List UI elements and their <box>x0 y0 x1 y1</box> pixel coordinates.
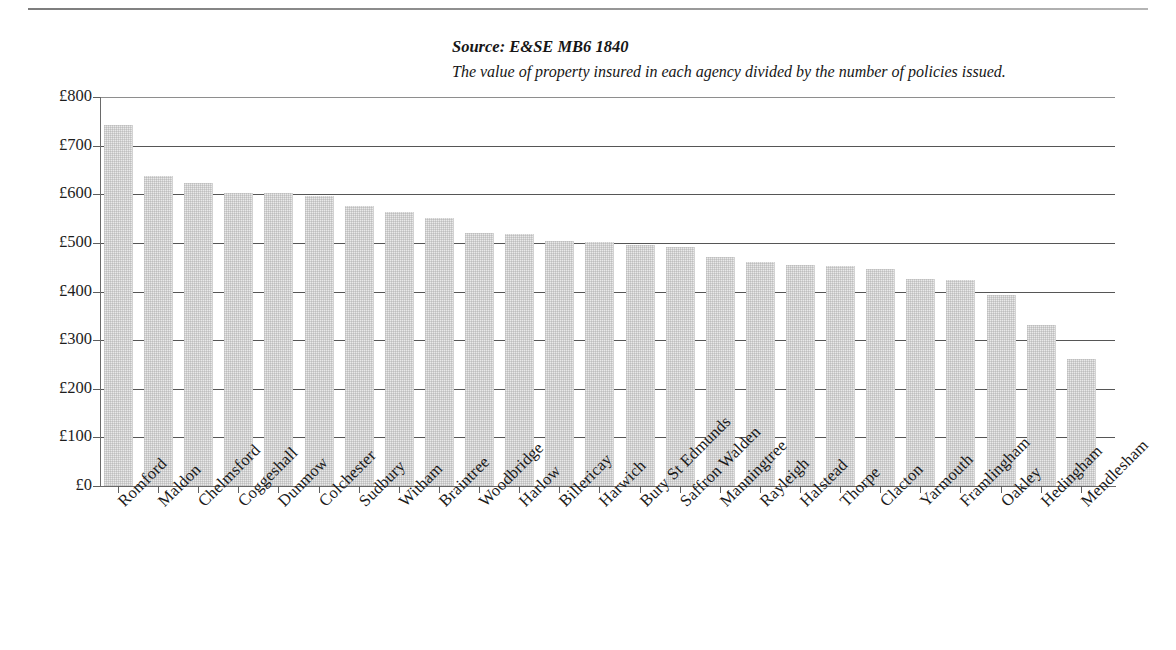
bar[interactable] <box>345 206 374 486</box>
x-axis-tick <box>599 486 600 493</box>
x-axis-tick <box>238 486 239 493</box>
bar[interactable] <box>786 265 815 486</box>
y-axis-tick-label: £100 <box>38 428 92 445</box>
x-axis-tick <box>1041 486 1042 493</box>
bar[interactable] <box>826 266 855 486</box>
y-axis-tick-label: £400 <box>38 283 92 300</box>
y-axis-tick-label: £600 <box>38 185 92 202</box>
x-axis-tick <box>920 486 921 493</box>
y-axis-tick-label: £200 <box>38 380 92 397</box>
x-axis-tick <box>359 486 360 493</box>
bar[interactable] <box>866 269 895 486</box>
x-axis-tick <box>479 486 480 493</box>
y-axis-tick <box>93 146 100 147</box>
y-axis-line <box>100 97 101 487</box>
y-axis-tick <box>93 486 100 487</box>
x-axis-tick <box>880 486 881 493</box>
bar[interactable] <box>184 183 213 486</box>
x-axis-tick <box>760 486 761 493</box>
x-axis-tick <box>319 486 320 493</box>
y-axis-tick <box>93 97 100 98</box>
x-axis-tick <box>720 486 721 493</box>
x-axis-tick <box>399 486 400 493</box>
plot-area <box>100 97 1115 486</box>
y-axis-tick <box>93 243 100 244</box>
bar[interactable] <box>104 125 133 486</box>
x-axis-tick <box>1001 486 1002 493</box>
x-axis-tick <box>278 486 279 493</box>
y-axis-tick <box>93 437 100 438</box>
y-axis-tick-label: £800 <box>38 88 92 105</box>
y-axis-tick <box>93 340 100 341</box>
bar[interactable] <box>264 193 293 486</box>
bar[interactable] <box>585 242 614 486</box>
y-axis-tick <box>93 194 100 195</box>
x-axis-tick <box>198 486 199 493</box>
x-axis-tick <box>800 486 801 493</box>
bar[interactable] <box>465 233 494 486</box>
bar[interactable] <box>545 241 574 486</box>
x-axis-tick <box>680 486 681 493</box>
x-axis-tick <box>158 486 159 493</box>
y-axis-tick-label: £300 <box>38 331 92 348</box>
x-axis-tick <box>960 486 961 493</box>
y-axis-tick <box>93 292 100 293</box>
bar[interactable] <box>906 279 935 486</box>
bar[interactable] <box>626 245 655 486</box>
y-axis-tick-label: £700 <box>38 137 92 154</box>
y-axis-tick-label: £500 <box>38 234 92 251</box>
x-axis-tick <box>439 486 440 493</box>
gridline <box>100 97 1115 98</box>
x-axis-tick <box>559 486 560 493</box>
x-axis-tick <box>1081 486 1082 493</box>
y-axis-tick <box>93 389 100 390</box>
bar-chart: £0£100£200£300£400£500£600£700£800 Romfo… <box>0 0 1176 650</box>
x-axis-tick <box>640 486 641 493</box>
bar[interactable] <box>144 176 173 486</box>
gridline <box>100 146 1115 147</box>
bar[interactable] <box>385 212 414 486</box>
x-axis-tick <box>519 486 520 493</box>
bar[interactable] <box>305 196 334 486</box>
bar[interactable] <box>425 218 454 486</box>
x-axis-tick <box>840 486 841 493</box>
y-axis-tick-label: £0 <box>38 477 92 494</box>
x-axis-tick <box>118 486 119 493</box>
